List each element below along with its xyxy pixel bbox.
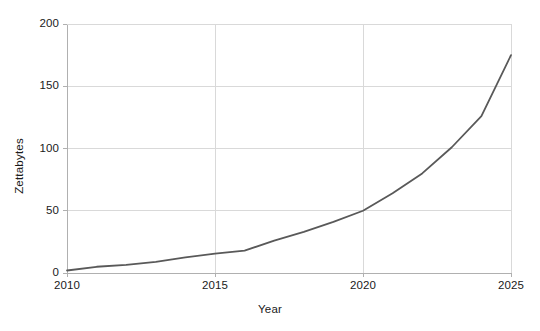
x-tick-2020: 2020 — [333, 279, 393, 291]
x-tick-2010: 2010 — [37, 279, 97, 291]
y-tick-100: 100 — [40, 142, 60, 154]
line-chart: 050100150200 2010201520202025 Zettabytes… — [0, 0, 540, 331]
data-series — [67, 55, 511, 270]
x-tick-2025: 2025 — [481, 279, 540, 291]
y-tick-200: 200 — [40, 17, 60, 29]
x-tick-2015: 2015 — [185, 279, 245, 291]
x-axis-label: Year — [0, 303, 540, 315]
y-tick-50: 50 — [46, 204, 59, 216]
y-tick-0: 0 — [53, 266, 60, 278]
axis-lines — [63, 24, 511, 277]
y-tick-150: 150 — [40, 79, 60, 91]
